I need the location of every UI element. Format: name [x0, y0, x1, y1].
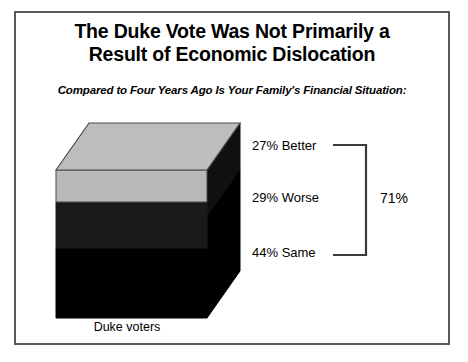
- segment-label-worse: 29% Worse: [252, 190, 319, 205]
- chart-title-line-1: The Duke Vote Was Not Primarily a: [74, 20, 389, 42]
- category-label-duke-voters: Duke voters: [62, 320, 192, 334]
- total-bracket: [328, 138, 372, 262]
- chart-subtitle: Compared to Four Years Ago Is Your Famil…: [24, 84, 440, 96]
- segment-same-front: [56, 248, 207, 318]
- chart-figure: The Duke Vote Was Not Primarily a Result…: [0, 0, 468, 362]
- segment-worse-front: [56, 202, 207, 248]
- segment-better-front: [56, 170, 207, 202]
- total-percentage-label: 71%: [380, 190, 408, 206]
- segment-better-top: [56, 123, 240, 170]
- stacked-3d-block: [48, 114, 248, 326]
- segment-label-better: 27% Better: [252, 138, 316, 153]
- chart-title-line-2: Result of Economic Dislocation: [24, 43, 440, 66]
- chart-title: The Duke Vote Was Not Primarily a Result…: [24, 20, 440, 66]
- segment-label-same: 44% Same: [252, 245, 316, 260]
